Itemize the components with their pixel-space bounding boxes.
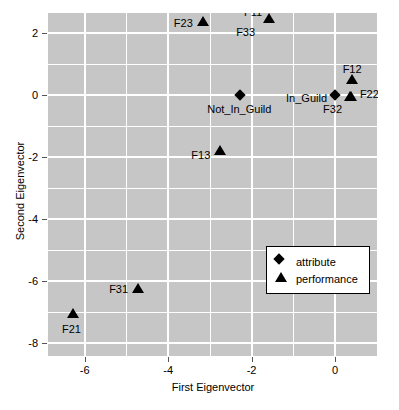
data-point-label-f12: F12 [343,64,362,75]
y-axis-tick-mark [42,343,47,344]
x-axis-title: First Eigenvector [48,381,378,393]
y-axis-tick-mark [42,33,47,34]
legend-item-attribute[interactable]: attribute [275,253,361,270]
x-axis-tick-mark [335,357,336,362]
triangle-marker-icon [132,283,144,293]
data-point-label-f21: F21 [62,324,81,335]
triangle-marker-icon [346,74,358,84]
x-axis-tick-label: -4 [163,364,173,376]
diamond-marker-icon [275,255,289,269]
triangle-marker-icon [67,308,79,318]
gridline-horizontal-minor [48,126,378,127]
gridline-vertical-major [167,13,169,356]
gridline-horizontal-major [48,342,378,344]
data-point-label-f33: F33 [48,27,255,38]
x-axis-tick-mark [85,357,86,362]
y-axis-tick-label: 0 [0,89,38,101]
legend: attributeperformance [266,246,370,294]
legend-item-performance[interactable]: performance [275,270,361,287]
gridline-vertical-major [251,13,253,356]
triangle-marker-icon [275,272,289,286]
x-axis-tick-label: 0 [332,364,338,376]
y-axis-tick-label: 2 [0,27,38,39]
x-axis-tick-mark [252,357,253,362]
data-point-label-f22: F22 [360,89,378,100]
gridline-horizontal-minor [48,64,378,65]
diamond-marker-icon [329,89,340,100]
x-axis-tick-label: -2 [247,364,257,376]
y-axis-title: Second Eigenvector [14,101,26,281]
triangle-marker-icon [344,91,356,101]
y-axis-tick-mark [42,281,47,282]
x-axis-tick-label: -6 [80,364,90,376]
gridline-vertical-major [84,13,86,356]
gridline-horizontal-minor [48,312,378,313]
legend-item-label: performance [296,273,358,285]
y-axis-tick-mark [42,219,47,220]
y-axis-tick-mark [42,95,47,96]
y-axis-tick-label: -8 [0,337,38,349]
data-point-label-f31: F31 [48,284,128,295]
legend-item-label: attribute [296,256,336,268]
plot-panel: Not_In_GuildIn_GuildF23F11F33F12F22F32F1… [48,13,378,356]
data-point-label-f32: F32 [48,104,342,115]
gridline-horizontal-major [48,218,378,220]
x-axis-tick-mark [168,357,169,362]
y-axis-tick-mark [42,157,47,158]
triangle-marker-icon [263,13,275,23]
gridline-horizontal-minor [48,188,378,189]
data-point-label-f13: F13 [48,150,210,161]
data-point-label-f11: F11 [48,13,262,18]
scatter-plot-figure: Not_In_GuildIn_GuildF23F11F33F12F22F32F1… [0,0,399,410]
gridline-vertical-major [334,13,336,356]
triangle-marker-icon [214,145,226,155]
data-point-label-in_guild: In_Guild [48,93,327,104]
